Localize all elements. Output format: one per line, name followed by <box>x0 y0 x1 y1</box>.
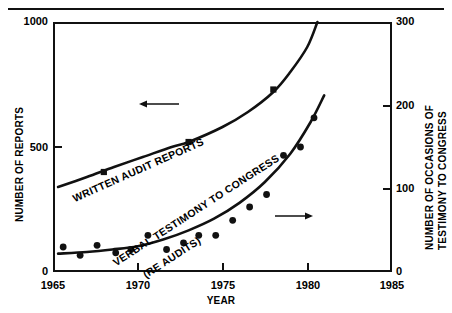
left-arrow-annotation-icon <box>139 101 179 108</box>
data-point-dot <box>94 242 101 249</box>
series-verbal-testimony <box>58 95 324 253</box>
x-axis-tick-label-1965: 1965 <box>29 280 77 291</box>
data-point-dot <box>246 204 253 211</box>
data-point-dot <box>263 191 270 198</box>
data-point-dot <box>60 244 67 251</box>
x-axis-tick-label-1970: 1970 <box>114 280 162 291</box>
data-point-dot <box>212 232 219 239</box>
data-point-marker <box>101 169 107 175</box>
y-axis-tick-label-1000: 1000 <box>4 16 48 27</box>
data-point-dot <box>229 217 236 224</box>
y2-axis-tick-label-300: 300 <box>396 16 436 27</box>
y-axis-tick-label-0: 0 <box>4 266 48 277</box>
y2-axis-tick-label-0: 0 <box>396 266 436 277</box>
right-arrow-annotation-icon <box>275 213 313 220</box>
top-rule-divider <box>8 8 444 10</box>
x-axis-tick-label-1980: 1980 <box>284 280 332 291</box>
plot-area: WRITTEN AUDIT REPORTS VERBAL TESTIMONY T… <box>53 22 392 272</box>
data-point-dot <box>77 252 84 259</box>
x-axis-title: YEAR <box>176 295 266 306</box>
data-point-dot <box>311 114 318 121</box>
data-point-dot <box>297 144 304 151</box>
y-axis-title: NUMBER OF REPORTS <box>14 107 25 222</box>
x-axis-tick-label-1985: 1985 <box>368 280 416 291</box>
chart-figure: 1000 500 0 300 200 100 0 1965 1970 1975 … <box>0 0 452 313</box>
verbal-testimony-curve <box>58 95 324 253</box>
y2-axis-title-line2: TESTIMONY TO CONGRESS <box>437 111 448 250</box>
y2-axis-title-line1: NUMBER OF OCCASIONS OF <box>424 105 435 250</box>
chart-canvas <box>53 22 392 272</box>
y-axis-tick-label-500: 500 <box>4 142 48 153</box>
data-point-dot <box>280 152 287 159</box>
data-point-marker <box>270 86 276 92</box>
x-axis-tick-label-1975: 1975 <box>199 280 247 291</box>
